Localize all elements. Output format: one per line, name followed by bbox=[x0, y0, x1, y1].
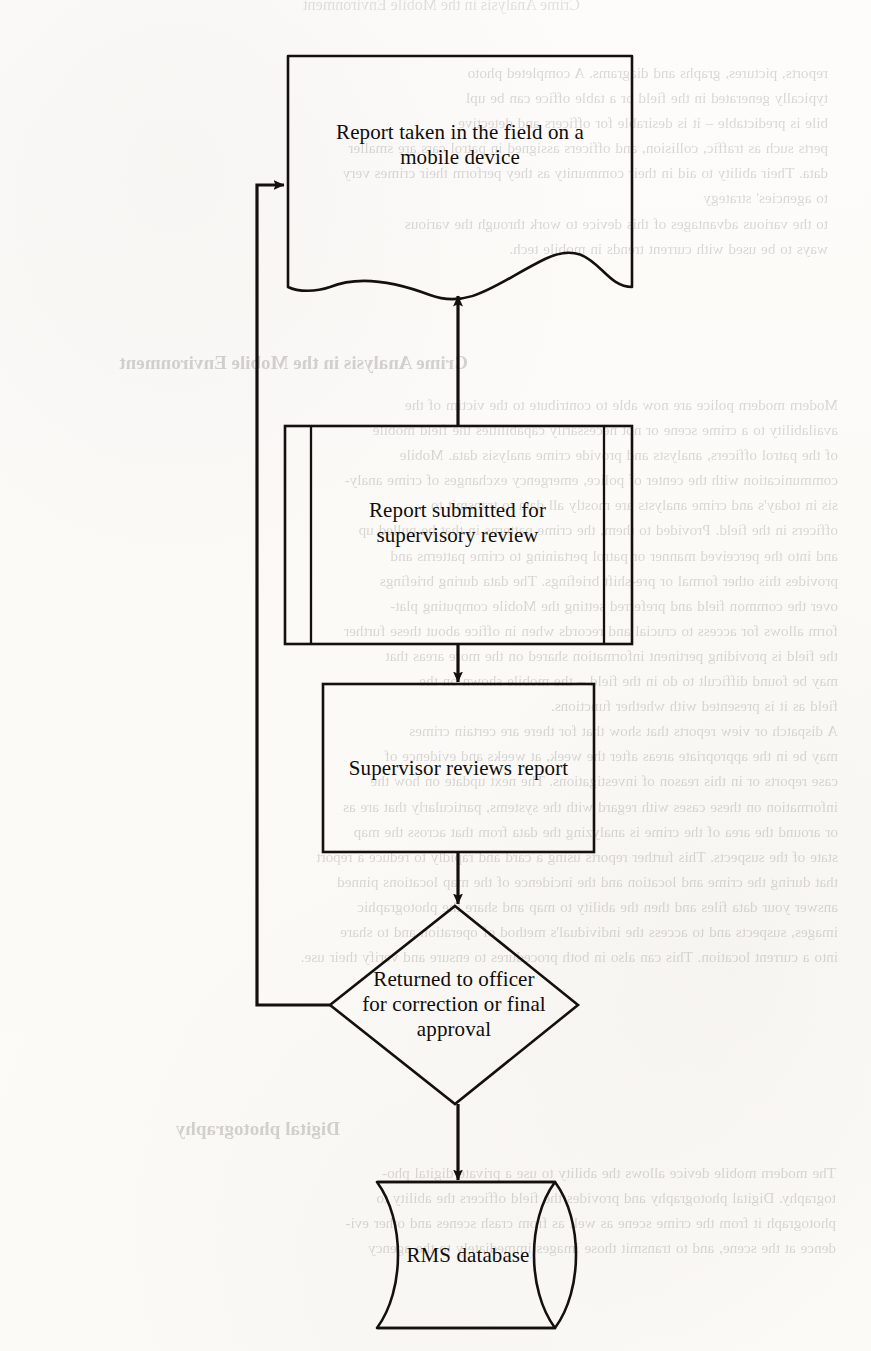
node-returned-or-approved-shape bbox=[330, 906, 578, 1104]
scanned-page: Crime Analysis in the Mobile Environment… bbox=[0, 0, 871, 1351]
node-rms-database-shape bbox=[377, 1182, 555, 1328]
node-supervisor-reviews-shape bbox=[323, 684, 594, 852]
node-rms-database-end-cap bbox=[555, 1182, 576, 1328]
flowchart: Report taken in the field on a mobile de… bbox=[0, 0, 871, 1351]
flowchart-canvas bbox=[0, 0, 871, 1351]
connector-feedback-loop bbox=[257, 185, 330, 1005]
node-report-submitted-shape bbox=[285, 426, 632, 644]
node-report-taken-shape bbox=[288, 56, 632, 299]
